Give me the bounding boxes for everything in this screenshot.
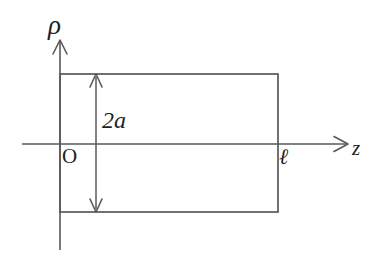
height-dimension-label: 2a	[102, 108, 126, 132]
rho-axis-label: ρ	[48, 12, 61, 39]
figure-container: ρ z O 2a ℓ	[0, 0, 390, 261]
origin-label: O	[62, 146, 77, 167]
z-axis-label: z	[352, 138, 360, 159]
cylinder-cross-section-rect	[60, 74, 278, 212]
length-marker-label: ℓ	[279, 146, 288, 168]
